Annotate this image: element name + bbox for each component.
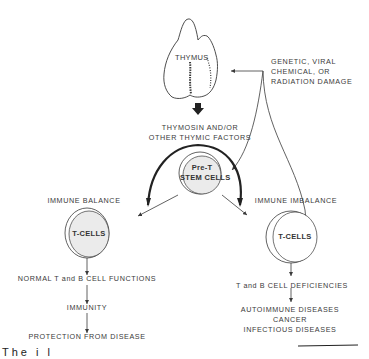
- thymic-factors-label: THYMOSIN AND/OR OTHER THYMIC FACTORS: [142, 123, 258, 143]
- thymus-label: THYMUS: [175, 53, 208, 63]
- stem-cells-label: Pre-T STEM CELLS: [180, 163, 224, 183]
- factors-line-2: OTHER THYMIC FACTORS: [142, 133, 258, 143]
- t-cells-right-label: T-CELLS: [272, 232, 318, 242]
- stem-line-2: STEM CELLS: [180, 173, 224, 183]
- disease-infectious: INFECTIOUS DISEASES: [240, 325, 340, 335]
- protection-label: PROTECTION FROM DISEASE: [24, 332, 150, 342]
- immunity-label: IMMUNITY: [57, 303, 117, 313]
- stem-line-1: Pre-T: [180, 163, 224, 173]
- damage-line-1: GENETIC, VIRAL: [271, 57, 352, 67]
- normal-functions-label: NORMAL T and B CELL FUNCTIONS: [12, 274, 162, 284]
- diseases-label: AUTOIMMUNE DISEASES CANCER INFECTIOUS DI…: [240, 305, 340, 335]
- disease-autoimmune: AUTOIMMUNE DISEASES: [240, 305, 340, 315]
- t-cells-left-label: T-CELLS: [66, 229, 112, 239]
- disease-cancer: CANCER: [240, 315, 340, 325]
- damage-line-2: CHEMICAL, OR: [271, 67, 352, 77]
- caption-fragment: The i l: [2, 346, 53, 358]
- immune-balance-title: IMMUNE BALANCE: [42, 196, 126, 206]
- factors-line-1: THYMOSIN AND/OR: [142, 123, 258, 133]
- divider: [298, 345, 358, 346]
- down-arrow-icon: [192, 103, 204, 115]
- damage-label: GENETIC, VIRAL CHEMICAL, OR RADIATION DA…: [271, 57, 352, 87]
- immune-imbalance-title: IMMUNE IMBALANCE: [250, 196, 342, 206]
- damage-line-3: RADIATION DAMAGE: [271, 77, 352, 87]
- deficiencies-label: T and B CELL DEFICIENCIES: [232, 281, 352, 291]
